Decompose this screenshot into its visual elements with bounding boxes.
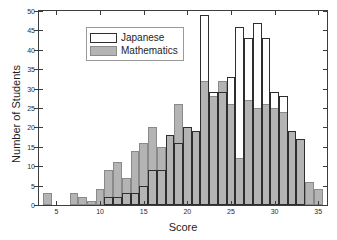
bar-japanese-22 <box>200 15 209 205</box>
bar-japanese-16 <box>148 170 157 205</box>
y-tick-inner-35 <box>39 69 43 70</box>
y-tick-inner-40 <box>39 50 43 51</box>
x-tick-30 <box>275 201 276 205</box>
y-tick-right-10 <box>323 166 327 167</box>
bar-japanese-23 <box>209 92 218 205</box>
y-tick-right-45 <box>323 30 327 31</box>
x-tick-top-10 <box>100 11 101 15</box>
y-tick-right-35 <box>323 69 327 70</box>
bar-japanese-25 <box>227 77 236 205</box>
y-tick-label-35: 35 <box>27 66 35 73</box>
x-tick-label-20: 20 <box>183 208 191 215</box>
y-tick-label-25: 25 <box>27 105 35 112</box>
x-tick-top-25 <box>231 11 232 15</box>
y-tick-label-50: 50 <box>27 8 35 15</box>
bar-japanese-12 <box>113 197 122 205</box>
bar-mathematics-9 <box>87 201 96 205</box>
y-tick-inner-30 <box>39 89 43 90</box>
bar-japanese-29 <box>262 38 271 205</box>
legend-item-mathematics: Mathematics <box>90 44 178 57</box>
y-tick-right-50 <box>323 11 327 12</box>
y-tick-label-45: 45 <box>27 27 35 34</box>
x-tick-top-20 <box>187 11 188 15</box>
y-tick-inner-15 <box>39 147 43 148</box>
bar-japanese-21 <box>192 131 201 205</box>
y-tick-inner-20 <box>39 127 43 128</box>
bar-japanese-19 <box>174 143 183 205</box>
bar-japanese-18 <box>166 135 175 205</box>
x-tick-label-15: 15 <box>140 208 148 215</box>
x-tick-20 <box>187 201 188 205</box>
x-tick-15 <box>144 201 145 205</box>
x-tick-label-10: 10 <box>96 208 104 215</box>
x-tick-top-5 <box>56 11 57 15</box>
x-tick-10 <box>100 201 101 205</box>
filled-swatch-icon <box>90 46 117 56</box>
x-tick-top-15 <box>144 11 145 15</box>
y-tick-label-0: 0 <box>31 202 35 209</box>
y-tick-inner-0 <box>39 205 43 206</box>
bar-mathematics-7 <box>70 193 79 205</box>
x-tick-label-5: 5 <box>55 208 59 215</box>
x-tick-5 <box>56 201 57 205</box>
y-tick-inner-50 <box>39 11 43 12</box>
bar-mathematics-34 <box>305 182 314 205</box>
x-tick-35 <box>318 201 319 205</box>
bar-mathematics-8 <box>78 197 87 205</box>
y-tick-label-10: 10 <box>27 163 35 170</box>
bar-mathematics-4 <box>43 193 52 205</box>
y-tick-inner-10 <box>39 166 43 167</box>
x-axis-title: Score <box>38 221 328 233</box>
y-tick-right-30 <box>323 89 327 90</box>
y-tick-inner-5 <box>39 186 43 187</box>
bar-japanese-14 <box>131 193 140 205</box>
x-tick-label-35: 35 <box>314 208 322 215</box>
legend-label-japanese: Japanese <box>121 32 164 43</box>
bar-japanese-24 <box>218 92 227 205</box>
x-tick-label-25: 25 <box>227 208 235 215</box>
y-tick-inner-25 <box>39 108 43 109</box>
x-tick-label-30: 30 <box>271 208 279 215</box>
y-tick-right-5 <box>323 186 327 187</box>
x-tick-top-35 <box>318 11 319 15</box>
histogram-figure: 05101520253035404550 5101520253035 Japan… <box>0 0 337 240</box>
legend-label-mathematics: Mathematics <box>121 45 178 56</box>
bar-japanese-33 <box>296 139 305 205</box>
y-tick-label-30: 30 <box>27 85 35 92</box>
bar-japanese-17 <box>157 170 166 205</box>
bar-japanese-31 <box>279 96 288 205</box>
y-tick-right-15 <box>323 147 327 148</box>
y-tick-right-20 <box>323 127 327 128</box>
bar-japanese-30 <box>270 92 279 205</box>
legend: Japanese Mathematics <box>86 27 184 61</box>
bar-japanese-26 <box>235 27 244 205</box>
y-tick-label-5: 5 <box>31 182 35 189</box>
y-tick-right-25 <box>323 108 327 109</box>
legend-item-japanese: Japanese <box>90 31 178 44</box>
plot-area: 05101520253035404550 5101520253035 Japan… <box>38 10 328 206</box>
bar-japanese-32 <box>288 131 297 205</box>
bar-japanese-20 <box>183 127 192 205</box>
bar-japanese-13 <box>122 193 131 205</box>
y-tick-label-20: 20 <box>27 124 35 131</box>
y-tick-right-0 <box>323 205 327 206</box>
outline-swatch-icon <box>90 33 117 43</box>
y-tick-label-40: 40 <box>27 46 35 53</box>
bar-japanese-11 <box>104 197 113 205</box>
bar-japanese-27 <box>244 38 253 205</box>
y-tick-label-15: 15 <box>27 143 35 150</box>
x-tick-25 <box>231 201 232 205</box>
bar-japanese-28 <box>253 23 262 205</box>
y-tick-inner-45 <box>39 30 43 31</box>
y-axis-title: Number of Students <box>10 34 22 194</box>
y-tick-right-40 <box>323 50 327 51</box>
x-tick-top-30 <box>275 11 276 15</box>
